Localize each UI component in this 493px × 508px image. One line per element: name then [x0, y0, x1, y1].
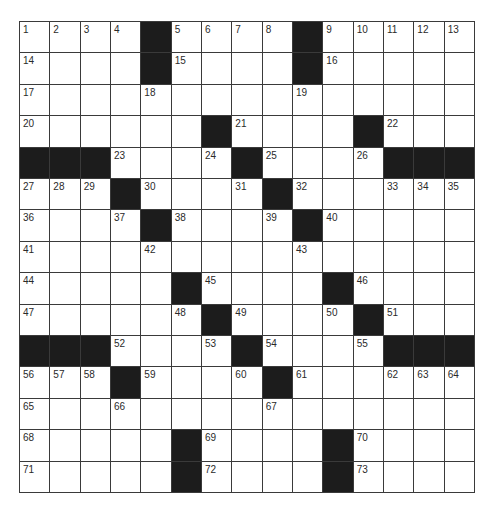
- crossword-cell[interactable]: 46: [354, 273, 384, 304]
- crossword-cell[interactable]: 26: [354, 148, 384, 179]
- crossword-cell[interactable]: 25: [263, 148, 293, 179]
- crossword-cell[interactable]: [445, 430, 475, 461]
- crossword-cell[interactable]: 60: [232, 367, 262, 398]
- crossword-cell[interactable]: 39: [263, 210, 293, 241]
- crossword-cell[interactable]: [50, 273, 80, 304]
- crossword-cell[interactable]: 61: [293, 367, 323, 398]
- crossword-cell[interactable]: [81, 116, 111, 147]
- crossword-cell[interactable]: 11: [384, 22, 414, 53]
- crossword-cell[interactable]: [50, 430, 80, 461]
- crossword-cell[interactable]: 4: [111, 22, 141, 53]
- crossword-cell[interactable]: 41: [20, 242, 50, 273]
- crossword-cell[interactable]: [293, 116, 323, 147]
- crossword-cell[interactable]: [172, 399, 202, 430]
- crossword-cell[interactable]: [202, 179, 232, 210]
- crossword-cell[interactable]: [81, 430, 111, 461]
- crossword-cell[interactable]: [354, 85, 384, 116]
- crossword-cell[interactable]: [263, 53, 293, 84]
- crossword-cell[interactable]: [293, 305, 323, 336]
- crossword-cell[interactable]: [81, 273, 111, 304]
- crossword-cell[interactable]: [232, 430, 262, 461]
- crossword-cell[interactable]: [445, 116, 475, 147]
- crossword-cell[interactable]: [111, 242, 141, 273]
- crossword-cell[interactable]: 21: [232, 116, 262, 147]
- crossword-cell[interactable]: [202, 242, 232, 273]
- crossword-cell[interactable]: 37: [111, 210, 141, 241]
- crossword-cell[interactable]: [323, 116, 353, 147]
- crossword-cell[interactable]: [293, 462, 323, 493]
- crossword-cell[interactable]: 24: [202, 148, 232, 179]
- crossword-cell[interactable]: 40: [323, 210, 353, 241]
- crossword-cell[interactable]: [354, 399, 384, 430]
- crossword-cell[interactable]: 68: [20, 430, 50, 461]
- crossword-cell[interactable]: 47: [20, 305, 50, 336]
- crossword-cell[interactable]: [445, 273, 475, 304]
- crossword-cell[interactable]: [141, 462, 171, 493]
- crossword-cell[interactable]: [172, 179, 202, 210]
- crossword-cell[interactable]: 69: [202, 430, 232, 461]
- crossword-cell[interactable]: [414, 242, 444, 273]
- crossword-cell[interactable]: [445, 305, 475, 336]
- crossword-cell[interactable]: [293, 430, 323, 461]
- crossword-cell[interactable]: [414, 305, 444, 336]
- crossword-cell[interactable]: [323, 85, 353, 116]
- crossword-cell[interactable]: [141, 336, 171, 367]
- crossword-cell[interactable]: [323, 367, 353, 398]
- crossword-cell[interactable]: 18: [141, 85, 171, 116]
- crossword-cell[interactable]: [414, 430, 444, 461]
- crossword-cell[interactable]: [50, 305, 80, 336]
- crossword-cell[interactable]: 59: [141, 367, 171, 398]
- crossword-cell[interactable]: 56: [20, 367, 50, 398]
- crossword-cell[interactable]: [263, 116, 293, 147]
- crossword-cell[interactable]: 58: [81, 367, 111, 398]
- crossword-cell[interactable]: [232, 399, 262, 430]
- crossword-cell[interactable]: 64: [445, 367, 475, 398]
- crossword-cell[interactable]: [81, 53, 111, 84]
- crossword-cell[interactable]: [414, 273, 444, 304]
- crossword-cell[interactable]: [81, 242, 111, 273]
- crossword-cell[interactable]: 70: [354, 430, 384, 461]
- crossword-cell[interactable]: 7: [232, 22, 262, 53]
- crossword-cell[interactable]: [50, 53, 80, 84]
- crossword-cell[interactable]: [50, 85, 80, 116]
- crossword-cell[interactable]: 31: [232, 179, 262, 210]
- crossword-cell[interactable]: [172, 148, 202, 179]
- crossword-cell[interactable]: [172, 116, 202, 147]
- crossword-cell[interactable]: [111, 116, 141, 147]
- crossword-cell[interactable]: [354, 367, 384, 398]
- crossword-cell[interactable]: [414, 116, 444, 147]
- crossword-cell[interactable]: 28: [50, 179, 80, 210]
- crossword-cell[interactable]: [293, 273, 323, 304]
- crossword-cell[interactable]: 63: [414, 367, 444, 398]
- crossword-cell[interactable]: [445, 242, 475, 273]
- crossword-cell[interactable]: [323, 148, 353, 179]
- crossword-cell[interactable]: 33: [384, 179, 414, 210]
- crossword-cell[interactable]: 42: [141, 242, 171, 273]
- crossword-cell[interactable]: [293, 399, 323, 430]
- crossword-cell[interactable]: [81, 399, 111, 430]
- crossword-cell[interactable]: [445, 399, 475, 430]
- crossword-cell[interactable]: [141, 305, 171, 336]
- crossword-cell[interactable]: 51: [384, 305, 414, 336]
- crossword-cell[interactable]: [354, 210, 384, 241]
- crossword-cell[interactable]: [111, 430, 141, 461]
- crossword-cell[interactable]: [50, 399, 80, 430]
- crossword-cell[interactable]: [414, 462, 444, 493]
- crossword-cell[interactable]: 36: [20, 210, 50, 241]
- crossword-cell[interactable]: [384, 462, 414, 493]
- crossword-cell[interactable]: 72: [202, 462, 232, 493]
- crossword-cell[interactable]: [354, 179, 384, 210]
- crossword-cell[interactable]: [263, 462, 293, 493]
- crossword-cell[interactable]: [232, 53, 262, 84]
- crossword-cell[interactable]: 16: [323, 53, 353, 84]
- crossword-cell[interactable]: [232, 210, 262, 241]
- crossword-cell[interactable]: [263, 242, 293, 273]
- crossword-cell[interactable]: [50, 210, 80, 241]
- crossword-cell[interactable]: 8: [263, 22, 293, 53]
- crossword-cell[interactable]: 62: [384, 367, 414, 398]
- crossword-cell[interactable]: 12: [414, 22, 444, 53]
- crossword-cell[interactable]: [384, 273, 414, 304]
- crossword-cell[interactable]: 50: [323, 305, 353, 336]
- crossword-cell[interactable]: 52: [111, 336, 141, 367]
- crossword-cell[interactable]: [81, 462, 111, 493]
